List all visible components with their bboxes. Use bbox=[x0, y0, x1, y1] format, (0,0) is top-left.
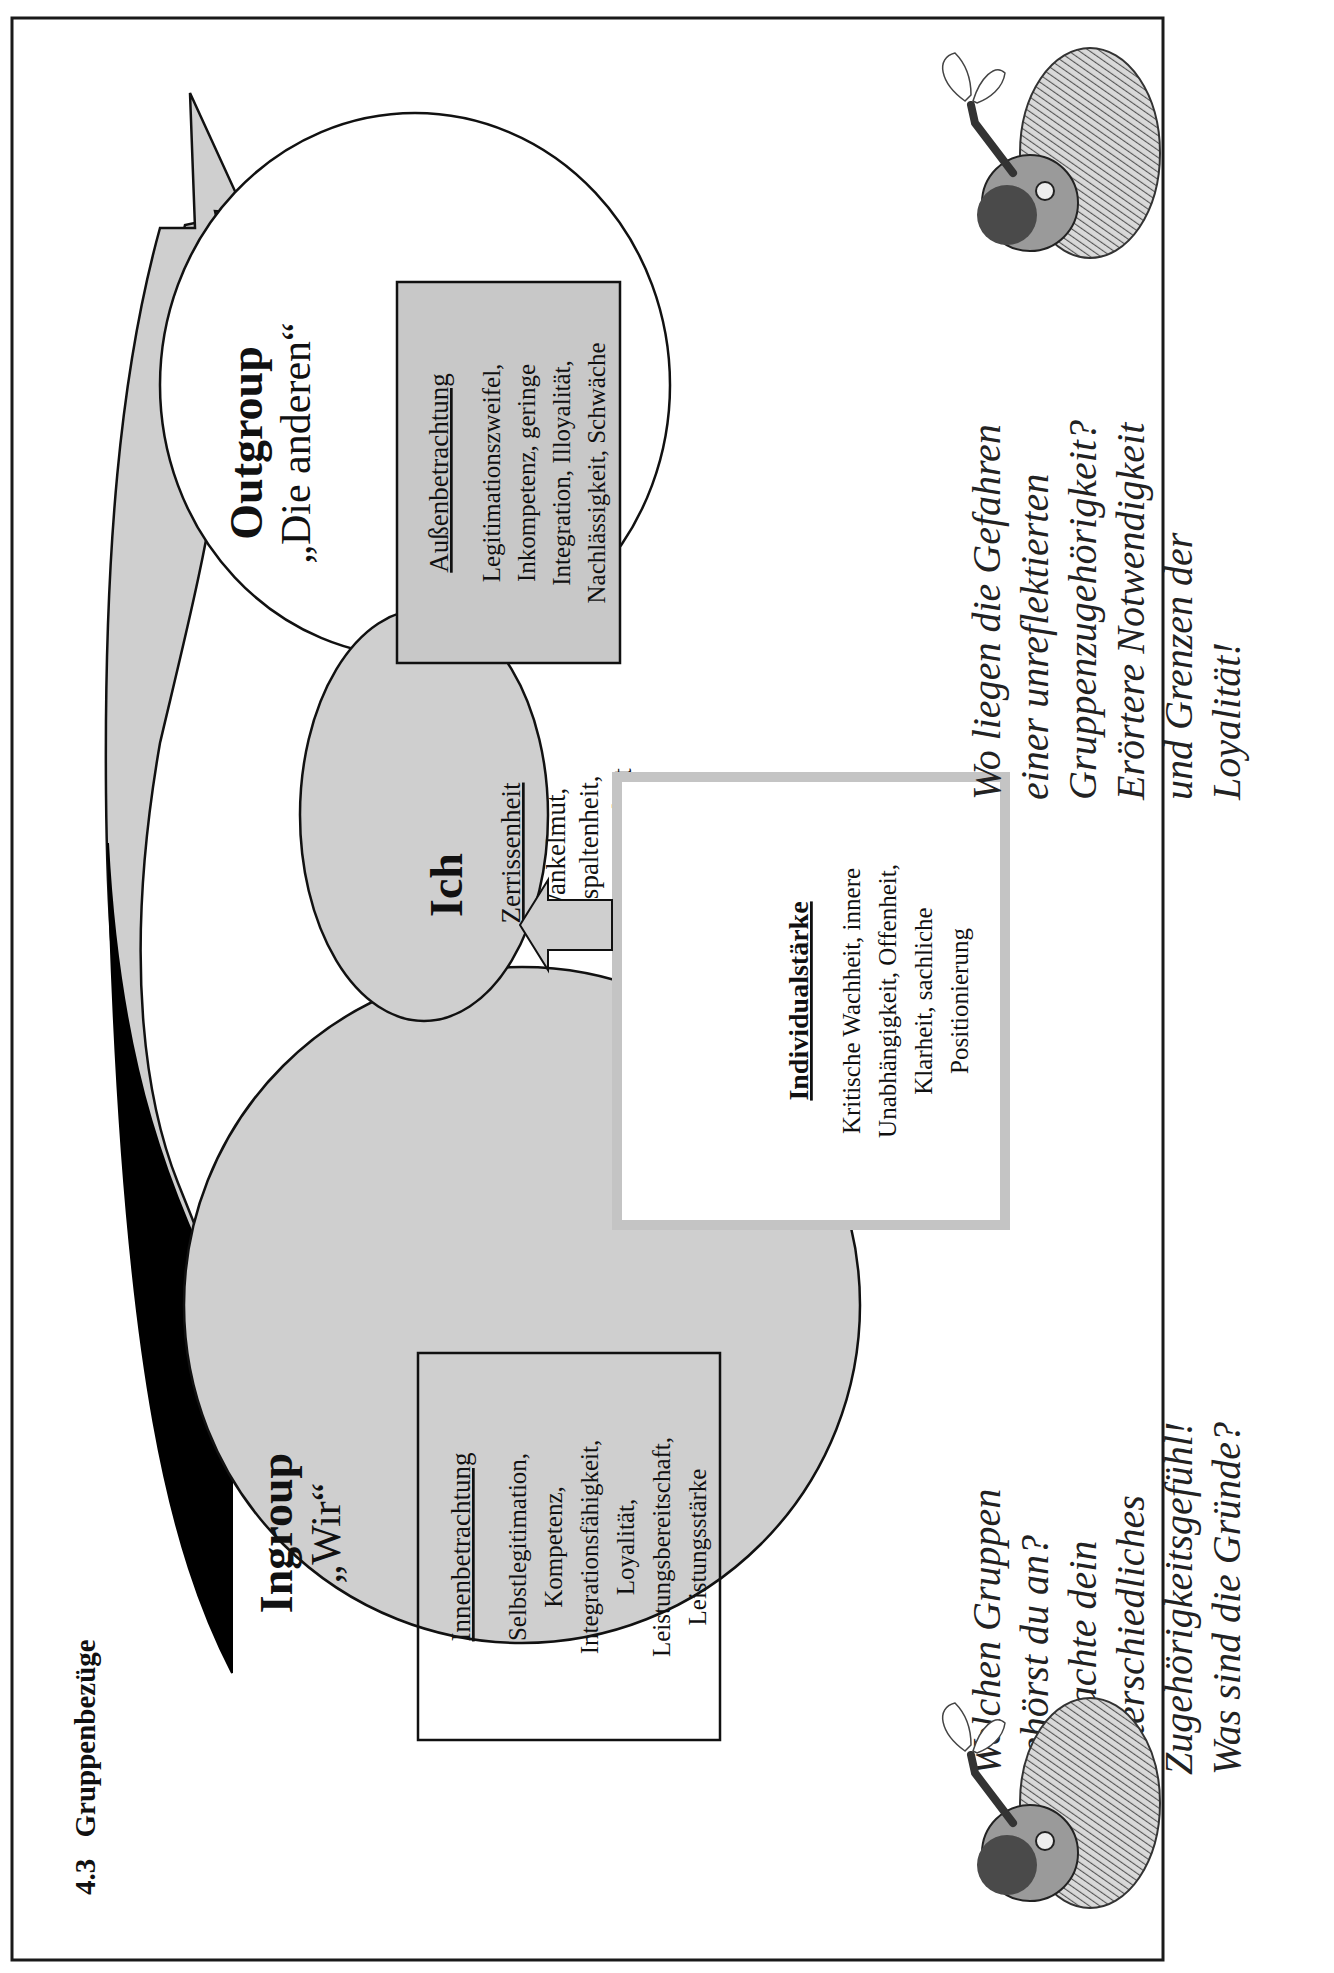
outgroup-subtitle: „Die anderen“ bbox=[273, 322, 319, 563]
innenbetrachtung-line: Leistungsbereitschaft, bbox=[648, 1437, 675, 1657]
individualstaerke-heading: Individualstärke bbox=[783, 901, 814, 1100]
ich-title: Ich bbox=[421, 853, 472, 917]
question-line: Zugehörigkeitsgefühl! bbox=[1156, 1422, 1201, 1775]
section-number: 4.3 bbox=[69, 1859, 101, 1895]
ich-heading: Zerrissenheit bbox=[496, 782, 526, 923]
ingroup-title: Ingroup bbox=[251, 1453, 302, 1613]
question-line: Loyalität! bbox=[1204, 642, 1249, 801]
man-with-butterfly-icon bbox=[943, 48, 1160, 258]
aussenbetrachtung-heading: Außenbetrachtung bbox=[424, 373, 454, 572]
innenbetrachtung-line: Integrationsfähigkeit, bbox=[576, 1440, 603, 1655]
aussenbetrachtung-line: Legitimationszweifel, bbox=[478, 364, 505, 583]
questions-right: Wo liegen die Gefahren einer unreflektie… bbox=[964, 420, 1249, 801]
innenbetrachtung-line: Loyalität, bbox=[612, 1499, 639, 1596]
individualstaerke-line: Unabhängigkeit, Offenheit, bbox=[874, 864, 901, 1138]
question-line: Wo liegen die Gefahren bbox=[964, 424, 1009, 800]
section-title: 4.3 Gruppenbezüge bbox=[69, 1639, 101, 1895]
section-name: Gruppenbezüge bbox=[69, 1639, 101, 1837]
rotated-content: 4.3 Gruppenbezüge Ingroup „Wir“ Innenbet… bbox=[12, 18, 1249, 1960]
individualstaerke-line: Positionierung bbox=[946, 928, 973, 1074]
innenbetrachtung-line: Kompetenz, bbox=[540, 1486, 567, 1607]
question-line: Gruppenzugehörigkeit? bbox=[1060, 420, 1105, 800]
question-line: einer unreflektierten bbox=[1012, 474, 1057, 800]
individualstaerke-line: Kritische Wachheit, innere bbox=[838, 868, 865, 1134]
innenbetrachtung-line: Selbstlegitimation, bbox=[504, 1453, 531, 1641]
aussenbetrachtung-line: Inkompetenz, geringe bbox=[513, 364, 540, 582]
aussenbetrachtung-line: Integration, Illoyalität, bbox=[548, 360, 575, 586]
innenbetrachtung-heading: Innenbetrachtung bbox=[446, 1453, 476, 1642]
aussenbetrachtung-line: Nachlässigkeit, Schwäche bbox=[583, 342, 610, 603]
worksheet-page: 4.3 Gruppenbezüge Ingroup „Wir“ Innenbet… bbox=[0, 0, 1334, 1973]
innenbetrachtung-line: Leistungsstärke bbox=[684, 1469, 711, 1626]
ingroup-subtitle: „Wir“ bbox=[303, 1483, 349, 1584]
question-line: und Grenzen der bbox=[1156, 532, 1201, 800]
outgroup-title: Outgroup bbox=[221, 346, 272, 539]
question-line: Erörtere Notwendigkeit bbox=[1108, 422, 1153, 801]
question-line: Was sind die Gründe? bbox=[1204, 1422, 1249, 1775]
individualstaerke-line: Klarheit, sachliche bbox=[910, 907, 937, 1094]
